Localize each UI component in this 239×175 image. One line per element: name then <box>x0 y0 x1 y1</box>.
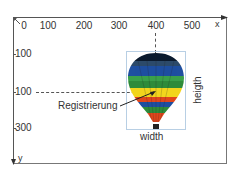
x-axis-arrow-icon <box>221 14 229 21</box>
y-tick-label: 100 <box>15 87 32 97</box>
x-tick-label: 400 <box>148 21 165 31</box>
x-tick-label: 0 <box>21 21 27 31</box>
y-tick-label: 100 <box>15 49 32 59</box>
registration-arrow-icon <box>118 88 158 108</box>
x-tick-label: 500 <box>184 21 201 31</box>
width-label: width <box>140 132 163 142</box>
x-axis-label: x <box>215 19 220 29</box>
y-axis-label: y <box>18 153 23 163</box>
x-tick-label: 200 <box>76 21 93 31</box>
x-tick-label: 100 <box>40 21 57 31</box>
height-label: heigth <box>192 76 203 103</box>
registration-label: Registrierung <box>58 101 117 111</box>
registration-guide-vertical <box>155 33 156 53</box>
x-tick-label: 300 <box>111 21 128 31</box>
y-axis-arrow-icon <box>11 159 16 166</box>
y-tick-label: 300 <box>15 123 32 133</box>
